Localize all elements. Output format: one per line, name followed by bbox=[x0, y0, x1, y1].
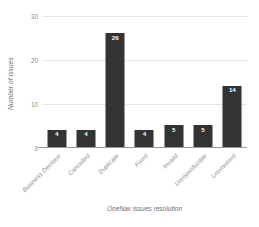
x-tick-label: Fixed bbox=[134, 152, 150, 168]
x-tick-slot: Cancelled bbox=[71, 150, 100, 202]
x-tick-slot: Business Decision bbox=[42, 150, 71, 202]
y-tick-label: 30 bbox=[31, 13, 38, 20]
bar-slot: 4 bbox=[130, 16, 159, 147]
bar-slot: 26 bbox=[101, 16, 130, 147]
bar-slot: 4 bbox=[42, 16, 71, 147]
x-tick-slot: Fixed bbox=[130, 150, 159, 202]
x-tick-label: Invalid bbox=[161, 152, 179, 170]
bar[interactable]: 14 bbox=[223, 86, 242, 147]
bar-slot: 5 bbox=[159, 16, 188, 147]
bar[interactable]: 4 bbox=[76, 130, 95, 147]
x-tick-labels-group: Business DecisionCancelledDuplicateFixed… bbox=[42, 150, 247, 202]
bar[interactable]: 5 bbox=[194, 125, 213, 147]
plot-area: 0102030 442645514 bbox=[42, 16, 247, 148]
x-tick-slot: Unresolved bbox=[218, 150, 247, 202]
y-tick-label: 20 bbox=[31, 57, 38, 64]
x-tick-label: Duplicate bbox=[97, 152, 121, 176]
bar-value-label: 5 bbox=[164, 127, 183, 133]
y-tick-label: 10 bbox=[31, 101, 38, 108]
x-tick-slot: Duplicate bbox=[101, 150, 130, 202]
bar-chart-figure: Number of issues 0102030 442645514 Busin… bbox=[0, 0, 259, 227]
bar-value-label: 4 bbox=[76, 131, 95, 137]
x-axis-baseline bbox=[38, 147, 247, 148]
x-axis-title: OneNav issues resolution bbox=[42, 205, 247, 212]
bar-value-label: 26 bbox=[106, 35, 125, 41]
y-axis-title-text: Number of issues bbox=[7, 57, 14, 110]
bar-slot: 4 bbox=[71, 16, 100, 147]
bar[interactable]: 5 bbox=[164, 125, 183, 147]
bar-value-label: 14 bbox=[223, 87, 242, 93]
y-tick-label: 0 bbox=[34, 145, 38, 152]
bar[interactable]: 26 bbox=[106, 33, 125, 147]
bar-value-label: 4 bbox=[135, 131, 154, 137]
y-axis-title: Number of issues bbox=[2, 28, 18, 138]
bar-slot: 5 bbox=[188, 16, 217, 147]
x-tick-label: Business Decision bbox=[20, 152, 61, 193]
bar-value-label: 5 bbox=[194, 127, 213, 133]
bar[interactable]: 4 bbox=[47, 130, 66, 147]
bars-group: 442645514 bbox=[42, 16, 247, 147]
bar-value-label: 4 bbox=[47, 131, 66, 137]
bar-slot: 14 bbox=[218, 16, 247, 147]
bar[interactable]: 4 bbox=[135, 130, 154, 147]
